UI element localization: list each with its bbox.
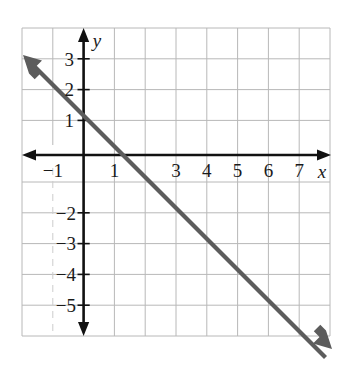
coordinate-plane-figure: 3 2 1 −2 −3 −4 −5 −1 1 3 4 5 6 7 x y [0, 0, 351, 369]
x-tick-label-5: 5 [233, 160, 243, 181]
x-tick-label-3: 3 [171, 160, 181, 181]
x-tick-label-4: 4 [202, 160, 212, 181]
y-tick-label-1: 1 [65, 110, 75, 131]
y-tick-label-3: 3 [65, 49, 75, 70]
coordinate-plane-svg: 3 2 1 −2 −3 −4 −5 −1 1 3 4 5 6 7 x y [0, 0, 351, 369]
y-axis-name-label: y [91, 30, 102, 51]
y-tick-label-neg3: −3 [56, 233, 76, 254]
x-tick-label-neg1: −1 [43, 160, 63, 181]
y-tick-label-neg2: −2 [56, 203, 76, 224]
y-tick-label-2: 2 [65, 79, 75, 100]
x-tick-label-1: 1 [110, 160, 120, 181]
x-tick-label-7: 7 [294, 160, 304, 181]
x-axis-name-label: x [317, 161, 327, 182]
y-tick-label-neg5: −5 [56, 295, 76, 316]
y-tick-label-neg4: −4 [56, 264, 77, 285]
x-tick-label-6: 6 [264, 160, 274, 181]
